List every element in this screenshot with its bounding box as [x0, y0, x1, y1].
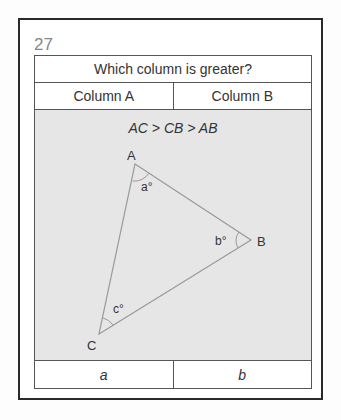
angle-c-label: c°: [113, 302, 124, 316]
answer-row: a b: [35, 361, 311, 388]
column-b-header: Column B: [173, 83, 312, 109]
angle-b-label: b°: [215, 234, 227, 248]
triangle-diagram: A a° B b° C c°: [35, 110, 313, 360]
comparison-table: Which column is greater? Column A Column…: [34, 55, 312, 389]
prompt-text: Which column is greater?: [35, 61, 311, 77]
prompt-row: Which column is greater?: [35, 56, 311, 83]
column-a-value: a: [35, 361, 173, 388]
question-number: 27: [34, 35, 53, 55]
vertex-b-label: B: [257, 234, 266, 249]
vertex-c-label: C: [87, 338, 96, 353]
column-a-header: Column A: [35, 83, 173, 109]
column-header-row: Column A Column B: [35, 83, 311, 110]
angle-a-label: a°: [141, 180, 153, 194]
vertex-a-label: A: [127, 148, 136, 163]
column-b-value: b: [173, 361, 312, 388]
triangle-figure: AC > CB > AB A a° B b° C c°: [35, 110, 311, 361]
